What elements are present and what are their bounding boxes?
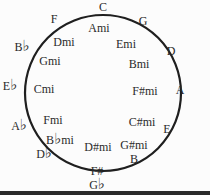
major-key-label: C: [99, 1, 107, 13]
minor-key-label: Ami: [88, 22, 109, 34]
major-key-label: F: [51, 13, 58, 25]
minor-key-label: Gmi: [39, 55, 60, 67]
bottom-bar: [0, 191, 210, 195]
minor-key-label: Dmi: [53, 36, 74, 48]
major-key-label: G: [139, 15, 148, 27]
flat-sign-icon: ♭: [54, 130, 61, 148]
minor-key-label: Cmi: [34, 83, 55, 95]
flat-sign-icon: ♭: [20, 116, 27, 134]
minor-key-label: Fmi: [43, 114, 62, 126]
minor-key-label: B♭mi: [46, 133, 74, 146]
major-key-label: B: [130, 153, 138, 165]
major-key-label: A♭: [11, 119, 27, 132]
minor-key-label: G#mi: [120, 139, 147, 151]
major-key-label: A: [176, 84, 185, 96]
minor-key-label: Emi: [116, 38, 136, 50]
minor-key-label: F#mi: [132, 85, 157, 97]
flat-sign-icon: ♭: [22, 37, 29, 55]
flat-sign-icon: ♭: [98, 175, 105, 193]
minor-key-label: D#mi: [84, 141, 111, 153]
minor-key-label: C#mi: [129, 116, 156, 128]
major-key-label: G♭: [89, 178, 105, 191]
flat-sign-icon: ♭: [10, 76, 17, 94]
major-key-label: B♭: [14, 40, 29, 53]
major-key-label: E♭: [3, 79, 17, 92]
minor-key-label: Bmi: [129, 58, 150, 70]
major-key-label: D♭: [36, 147, 52, 160]
major-key-label: D: [167, 45, 176, 57]
major-key-label: E: [163, 123, 170, 135]
